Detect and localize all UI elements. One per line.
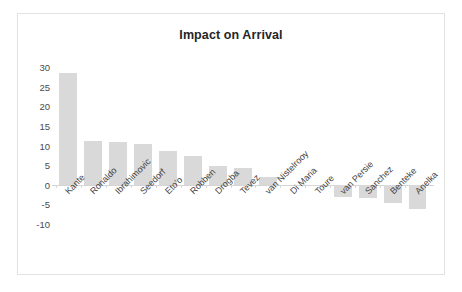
y-axis-tick-label: -5 — [42, 199, 50, 210]
bar-slot — [330, 67, 355, 224]
x-axis-tick — [106, 185, 107, 188]
bar-slot — [231, 67, 256, 224]
y-axis-tick-label: 30 — [39, 62, 50, 73]
bar-slot — [56, 67, 81, 224]
bar-slot — [131, 67, 156, 224]
bar[interactable] — [59, 73, 77, 184]
bar-slot — [355, 67, 380, 224]
bar-slot — [380, 67, 405, 224]
plot-area: 302520151050-5-10 — [56, 67, 430, 224]
chart-title: Impact on Arrival — [18, 28, 444, 42]
bar-series — [56, 67, 430, 224]
bar-slot — [206, 67, 231, 224]
y-axis-tick-label: 0 — [45, 179, 50, 190]
bar-slot — [305, 67, 330, 224]
y-axis-tick-label: 5 — [45, 160, 50, 171]
y-axis-tick-label: -10 — [36, 219, 50, 230]
bar-slot — [181, 67, 206, 224]
bar-slot — [81, 67, 106, 224]
y-axis-tick-label: 10 — [39, 140, 50, 151]
chart-container: Impact on Arrival 302520151050-5-10 Kant… — [17, 13, 445, 275]
bar-slot — [405, 67, 430, 224]
y-axis-tick-label: 25 — [39, 81, 50, 92]
y-axis-tick-label: 20 — [39, 101, 50, 112]
y-axis-tick-label: 15 — [39, 120, 50, 131]
x-axis-tick — [56, 185, 57, 188]
bar-slot — [280, 67, 305, 224]
x-axis-tick — [81, 185, 82, 188]
bar-slot — [156, 67, 181, 224]
bar-slot — [255, 67, 280, 224]
bar-slot — [106, 67, 131, 224]
